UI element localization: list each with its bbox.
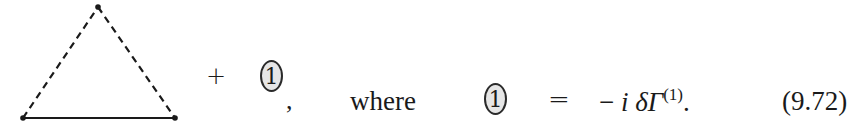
triangle-diagram — [0, 0, 200, 132]
vertex-bottom-left — [20, 115, 26, 121]
vertex-top — [95, 4, 101, 10]
dashed-propagator-right — [98, 7, 175, 118]
delta-gamma: δΓ — [635, 87, 663, 117]
rhs-expression: − i δΓ(1). — [599, 86, 690, 116]
circled-definition-1: 1 — [484, 83, 507, 115]
superscript-order: (1) — [663, 85, 683, 104]
circled-counterterm-1: 1 — [260, 60, 283, 92]
minus-sign: − — [599, 87, 614, 117]
equals-sign: = — [548, 86, 570, 112]
definition-label: 1 — [489, 87, 503, 112]
counterterm-label: 1 — [265, 64, 279, 89]
comma: , — [286, 88, 293, 114]
vertex-bottom-right — [172, 115, 178, 121]
imaginary-unit: i — [621, 87, 629, 117]
where-text: where — [350, 88, 416, 115]
plus-sign: + — [206, 64, 226, 88]
equation-number: (9.72) — [782, 88, 847, 115]
period: . — [683, 87, 690, 117]
dashed-propagator-left — [23, 7, 98, 118]
